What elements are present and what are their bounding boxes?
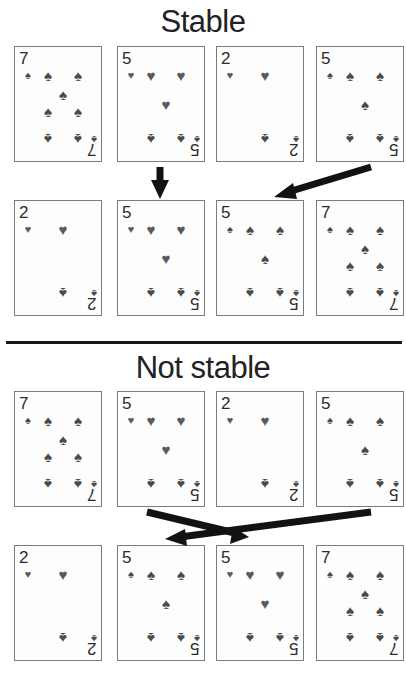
card-pip: ♠ [376, 631, 384, 646]
card-pip: ♥ [261, 596, 270, 611]
card-rank-top-left: 2 [19, 204, 28, 221]
card-pip: ♠ [74, 477, 82, 492]
card-pip: ♠ [327, 569, 333, 580]
card-pip: ♠ [162, 596, 170, 611]
card-pip: ♠ [376, 222, 384, 237]
card-pip: ♥ [227, 415, 234, 426]
card-pip: ♠ [346, 631, 354, 646]
stable-output-row: 2 2 ♥ ♥ ♠ ♠ 5 5 ♥ ♥ ♥ ♥ ♠ ♠ ♠ [0, 200, 406, 318]
card-rank-top-left: 5 [122, 204, 131, 221]
card-pip: ♠ [44, 68, 52, 83]
card-face: 2 2 ♥ ♥ ♠ ♠ [217, 392, 303, 506]
card-pip: ♠ [91, 479, 97, 490]
card-pip: ♠ [227, 224, 233, 235]
not-stable-output-row: 2 2 ♥ ♥ ♠ ♠ 5 5 ♠ ♠ ♠ ♠ ♠ ♠ ♠ [0, 545, 406, 663]
card-pip: ♠ [346, 222, 354, 237]
card-pip: ♠ [74, 68, 82, 83]
card-pip: ♠ [91, 288, 97, 299]
card-stable-input-1: 5 5 ♥ ♥ ♥ ♥ ♠ ♠ ♠ [117, 46, 205, 162]
card-pip: ♠ [276, 631, 284, 646]
card-face: 7 7 ♠ ♠ ♠ ♠ ♠ ♠ ♠ ♠ ♠ [15, 392, 101, 506]
card-pip: ♠ [376, 132, 384, 147]
card-pip: ♥ [162, 442, 171, 457]
card-stable-input-3: 5 5 ♠ ♠ ♠ ♠ ♠ ♠ ♠ [316, 46, 404, 162]
card-rank-top-left: 7 [321, 549, 330, 566]
card-notstable-output-3: 7 7 ♠ ♠ ♠ ♠ ♠ ♠ ♠ ♠ ♠ [316, 545, 404, 661]
card-notstable-output-2: 5 5 ♥ ♥ ♥ ♥ ♠ ♠ ♠ [216, 545, 304, 661]
card-pip: ♠ [74, 449, 82, 464]
card-pip: ♠ [293, 633, 299, 644]
card-pip: ♠ [346, 286, 354, 301]
card-pip: ♠ [376, 603, 384, 618]
card-pip: ♠ [246, 631, 254, 646]
card-pip: ♠ [346, 477, 354, 492]
card-pip: ♠ [376, 68, 384, 83]
card-pip: ♠ [376, 413, 384, 428]
arrow-five-hearts-crossing [147, 512, 249, 544]
card-face: 7 7 ♠ ♠ ♠ ♠ ♠ ♠ ♠ ♠ ♠ [317, 201, 403, 315]
card-stable-input-0: 7 7 ♠ ♠ ♠ ♠ ♠ ♠ ♠ ♠ ♠ [14, 46, 102, 162]
card-pip: ♠ [147, 477, 155, 492]
card-pip: ♠ [25, 70, 31, 81]
card-pip: ♥ [25, 569, 32, 580]
card-pip: ♠ [74, 413, 82, 428]
card-rank-top-left: 5 [221, 549, 230, 566]
card-pip: ♠ [346, 68, 354, 83]
card-pip: ♠ [44, 449, 52, 464]
card-pip: ♠ [327, 70, 333, 81]
card-rank-top-left: 7 [19, 395, 28, 412]
card-stable-input-2: 2 2 ♥ ♥ ♠ ♠ [216, 46, 304, 162]
card-pip: ♥ [261, 413, 270, 428]
card-pip: ♠ [261, 251, 269, 266]
not-stable-input-row: 7 7 ♠ ♠ ♠ ♠ ♠ ♠ ♠ ♠ ♠ 5 5 ♥ ♥ ♥ ♥ ♠ [0, 391, 406, 509]
card-pip: ♠ [177, 567, 185, 582]
section-title-stable: Stable [0, 6, 406, 37]
card-notstable-input-2: 2 2 ♥ ♥ ♠ ♠ [216, 391, 304, 507]
card-rank-top-left: 5 [122, 395, 131, 412]
card-pip: ♠ [147, 286, 155, 301]
card-face: 5 5 ♥ ♥ ♥ ♥ ♠ ♠ ♠ [118, 201, 204, 315]
card-rank-top-left: 5 [122, 50, 131, 67]
card-pip: ♠ [376, 258, 384, 273]
arrow-five-hearts-straight [151, 167, 169, 199]
arrow-five-spades-diagonal [274, 167, 371, 199]
card-pip: ♠ [376, 286, 384, 301]
card-pip: ♠ [393, 633, 399, 644]
card-pip: ♠ [276, 222, 284, 237]
card-notstable-output-0: 2 2 ♥ ♥ ♠ ♠ [14, 545, 102, 661]
card-pip: ♥ [227, 70, 234, 81]
card-pip: ♠ [261, 477, 269, 492]
card-pip: ♥ [25, 224, 32, 235]
card-pip: ♠ [361, 442, 369, 457]
card-pip: ♠ [327, 224, 333, 235]
card-pip: ♠ [376, 477, 384, 492]
card-pip: ♠ [376, 567, 384, 582]
card-pip: ♠ [276, 286, 284, 301]
card-pip: ♥ [147, 68, 156, 83]
card-pip: ♠ [194, 633, 200, 644]
card-pip: ♥ [177, 68, 186, 83]
section-divider [6, 341, 402, 344]
card-pip: ♠ [91, 134, 97, 145]
card-pip: ♠ [177, 286, 185, 301]
card-face: 2 2 ♥ ♥ ♠ ♠ [217, 47, 303, 161]
card-pip: ♠ [327, 415, 333, 426]
card-pip: ♠ [346, 258, 354, 273]
card-pip: ♠ [346, 603, 354, 618]
card-pip: ♥ [246, 567, 255, 582]
card-pip: ♠ [44, 104, 52, 119]
card-notstable-output-1: 5 5 ♠ ♠ ♠ ♠ ♠ ♠ ♠ [117, 545, 205, 661]
card-pip: ♠ [44, 413, 52, 428]
card-rank-top-left: 2 [19, 549, 28, 566]
card-pip: ♥ [128, 415, 135, 426]
card-pip: ♠ [147, 132, 155, 147]
card-pip: ♠ [74, 104, 82, 119]
card-pip: ♠ [361, 241, 369, 256]
card-pip: ♠ [293, 479, 299, 490]
card-pip: ♥ [276, 567, 285, 582]
card-notstable-input-1: 5 5 ♥ ♥ ♥ ♥ ♠ ♠ ♠ [117, 391, 205, 507]
card-stable-output-3: 7 7 ♠ ♠ ♠ ♠ ♠ ♠ ♠ ♠ ♠ [316, 200, 404, 316]
card-pip: ♠ [361, 586, 369, 601]
card-face: 2 2 ♥ ♥ ♠ ♠ [15, 546, 101, 660]
card-stable-output-0: 2 2 ♥ ♥ ♠ ♠ [14, 200, 102, 316]
